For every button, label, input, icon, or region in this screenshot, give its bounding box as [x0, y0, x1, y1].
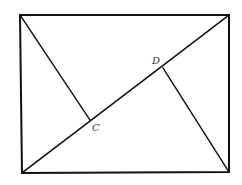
perpendicular-to-d [163, 68, 229, 172]
point-label-d: D [151, 55, 160, 66]
rectangle-diagonal-diagram: C D [0, 0, 242, 185]
point-label-c: C [92, 122, 100, 133]
diagonal-line [22, 15, 229, 173]
perpendicular-to-c [20, 15, 90, 120]
